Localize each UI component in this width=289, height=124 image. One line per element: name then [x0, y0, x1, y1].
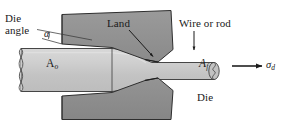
area-final-subscript: f	[206, 62, 208, 71]
area-initial-subscript: o	[54, 62, 58, 71]
area-final-label: Af	[199, 57, 208, 71]
figure-canvas	[0, 0, 289, 124]
drawing-stress-label: σd	[266, 59, 275, 72]
die-label: Die	[197, 92, 213, 104]
wire-or-rod-label: Wire or rod	[179, 18, 231, 30]
sigma-subscript: d	[271, 63, 275, 72]
die-angle-label-line2: angle	[5, 25, 29, 37]
die-angle-label: Die angle	[5, 13, 29, 36]
die-angle-label-line1: Die	[5, 13, 29, 25]
alpha-symbol-label: α	[44, 29, 49, 40]
land-label: Land	[107, 18, 130, 30]
wire-drawing-figure: Die angle α Land Wire or rod Ao Af σd Di…	[0, 0, 289, 124]
area-initial-label: Ao	[46, 57, 58, 71]
